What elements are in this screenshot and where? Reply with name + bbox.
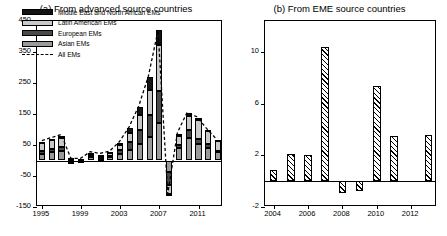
panel-b-title: (b) From EME source countries — [232, 3, 447, 15]
x-tick-label-b-4: 2012 — [390, 210, 430, 218]
y-tick-label-b-1: 2 — [232, 150, 259, 158]
bar-segment-2009-0 — [176, 148, 182, 160]
bar-segment-2005-2 — [137, 115, 143, 130]
bar-segment-1997-1 — [58, 147, 64, 151]
y-tick-b-0 — [261, 207, 265, 208]
y-tick-label-a-2: 50 — [0, 140, 31, 148]
bar-segment-2011-3 — [195, 118, 201, 120]
bar-segment-1996-2 — [49, 140, 55, 149]
legend-label-1: Latin American EMs — [58, 19, 117, 26]
bar-segment-2008-2 — [166, 185, 172, 194]
bar-segment-2007-1 — [156, 91, 162, 123]
bar-segment-2009-2 — [176, 136, 182, 145]
bar-segment-2002-0 — [107, 157, 113, 160]
bar-segment-2005-3 — [137, 107, 143, 115]
bar-segment-2011-1 — [195, 139, 201, 145]
bar-2013 — [425, 135, 433, 182]
panel-eme-source-countries: (b) From EME source countries -22610 200… — [232, 0, 447, 236]
bar-segment-2012-2 — [205, 131, 211, 144]
y-tick-label-b-3: 10 — [232, 47, 259, 55]
bar-2004 — [270, 170, 278, 182]
legend-label-3: Asian EMs — [58, 40, 90, 47]
bar-column-2013 — [215, 21, 221, 207]
bar-segment-1996-0 — [49, 152, 55, 160]
y-tick-a-1 — [33, 176, 37, 177]
y-tick-a-2 — [33, 145, 37, 146]
x-tick-label-a-2: 2003 — [99, 210, 139, 218]
bar-segment-2001-1 — [98, 157, 104, 159]
bar-2007 — [321, 47, 329, 181]
bar-2011 — [390, 136, 398, 181]
bar-segment-2009-3 — [176, 134, 182, 136]
x-tick-label-a-4: 2011 — [178, 210, 218, 218]
bar-segment-2005-1 — [137, 130, 143, 144]
bar-segment-2007-0 — [156, 123, 162, 160]
bar-segment-2004-3 — [127, 128, 133, 132]
bar-column-2009 — [176, 21, 182, 207]
bar-segment-1995-1 — [39, 151, 45, 153]
bar-segment-2010-1 — [186, 130, 192, 137]
bar-segment-2013-0 — [215, 152, 221, 160]
bar-segment-2004-0 — [127, 150, 133, 161]
legend-swatch-3 — [22, 41, 53, 47]
bar-segment-2006-1 — [147, 115, 153, 137]
bar-segment-2012-3 — [205, 130, 211, 132]
legend-label-0: Middle East and North African EMs — [58, 9, 160, 16]
bar-segment-2006-0 — [147, 137, 153, 161]
y-tick-label-b-0: -2 — [232, 202, 259, 210]
y-tick-label-a-3: 150 — [0, 109, 31, 117]
bar-segment-1998-2 — [68, 158, 74, 160]
bar-segment-2003-3 — [117, 143, 123, 145]
legend-swatch-4 — [22, 54, 53, 55]
bar-segment-2010-0 — [186, 138, 192, 161]
bar-segment-2003-2 — [117, 145, 123, 150]
zero-line-panel-b — [265, 181, 435, 182]
y-tick-b-3 — [261, 52, 265, 53]
legend-item-3: Asian EMs — [22, 39, 172, 50]
bar-segment-2005-0 — [137, 144, 143, 160]
bar-segment-2008-0 — [166, 161, 172, 172]
bar-segment-2013-3 — [215, 140, 221, 142]
legend-item-1: Latin American EMs — [22, 18, 172, 29]
bar-segment-1996-1 — [49, 149, 55, 152]
bar-segment-2001-3 — [98, 155, 104, 157]
y-tick-a-0 — [33, 207, 37, 208]
bar-segment-2003-1 — [117, 150, 123, 154]
legend-item-2: European EMs — [22, 28, 172, 39]
legend-swatch-1 — [22, 20, 53, 26]
bar-segment-1995-3 — [39, 142, 45, 144]
y-tick-b-1 — [261, 155, 265, 156]
panel-advanced-source-countries: (a) From advanced source countries -150-… — [0, 0, 232, 236]
y-tick-b-2 — [261, 104, 265, 105]
bar-segment-2008-3 — [166, 194, 172, 196]
bar-column-2010 — [186, 21, 192, 207]
bar-column-2012 — [205, 21, 211, 207]
bar-segment-2012-1 — [205, 144, 211, 148]
bar-segment-2010-2 — [186, 116, 192, 130]
bar-segment-2013-2 — [215, 141, 221, 150]
bar-segment-2006-3 — [147, 77, 153, 91]
bar-segment-2010-3 — [186, 113, 192, 116]
bar-segment-2003-0 — [117, 154, 123, 160]
bar-segment-1995-0 — [39, 154, 45, 161]
bar-segment-1996-3 — [49, 139, 55, 141]
bar-segment-2008-1 — [166, 172, 172, 185]
legend-item-0: Middle East and North African EMs — [22, 7, 172, 18]
bar-segment-1999-3 — [78, 161, 84, 163]
bar-segment-1998-3 — [68, 162, 74, 164]
figure-root: (a) From advanced source countries -150-… — [0, 0, 447, 236]
bar-segment-2006-2 — [147, 90, 153, 114]
bar-segment-2011-2 — [195, 120, 201, 139]
bar-segment-2002-3 — [107, 152, 113, 154]
bar-segment-2012-0 — [205, 148, 211, 160]
bar-segment-1997-2 — [58, 138, 64, 148]
y-tick-label-b-2: 6 — [232, 99, 259, 107]
y-tick-label-a-1: -50 — [0, 171, 31, 179]
legend-swatch-0 — [22, 9, 53, 15]
bar-2005 — [287, 154, 295, 181]
bar-segment-2004-1 — [127, 142, 133, 150]
bar-segment-2002-1 — [107, 156, 113, 158]
bar-segment-2004-2 — [127, 133, 133, 142]
bar-2010 — [373, 86, 381, 182]
bar-2009 — [356, 181, 364, 191]
